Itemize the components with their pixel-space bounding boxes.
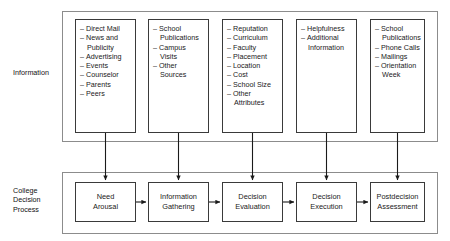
info-item: Parents [80,80,132,89]
process-step-label: Decision Execution [310,192,342,211]
info-box-mass-media-sources: Direct Mail News and Publicity Advertisi… [75,19,136,133]
info-item: Faculty [227,43,279,52]
process-step-decision-evaluation: Decision Evaluation [222,182,283,222]
info-item: School Publications [375,24,421,43]
process-step-label: Need Arousal [93,192,118,211]
info-box-execution-support: Helpfulness Additional Information [296,19,357,133]
row-label-college-decision-process: College Decision Process [13,186,41,214]
info-item: Placement [227,52,279,61]
process-step-label: Information Gathering [160,192,197,211]
info-item: News and Publicity [80,33,132,52]
info-item: Location [227,61,279,70]
info-item: School Publications [153,24,205,43]
college-decision-process-diagram: Information College Decision Process Dir… [0,0,450,241]
info-item: Advertising [80,52,132,61]
info-box-school-contact-sources: School Publications Campus Visits Other … [148,19,209,133]
process-step-information-gathering: Information Gathering [148,182,209,222]
info-list: School Publications Campus Visits Other … [153,24,205,80]
process-step-label: Decision Evaluation [235,192,270,211]
info-item: Peers [80,89,132,98]
process-step-decision-execution: Decision Execution [296,182,357,222]
info-item: Direct Mail [80,24,132,33]
info-item: School Size [227,80,279,89]
info-item: Cost [227,70,279,79]
info-item: Campus Visits [153,43,205,62]
info-item: Helpfulness [301,24,353,33]
info-list: Direct Mail News and Publicity Advertisi… [80,24,132,98]
info-item: Reputation [227,24,279,33]
info-item: Mailings [375,52,421,61]
info-item: Orientation Week [375,61,421,80]
info-item: Additional Information [301,33,353,52]
info-item: Other Sources [153,61,205,80]
info-item: Counselor [80,70,132,79]
info-item: Phone Calls [375,43,421,52]
info-item: Other Attributes [227,89,279,108]
row-label-information: Information [13,68,49,77]
info-list: Helpfulness Additional Information [301,24,353,52]
info-list: Reputation Curriculum Faculty Placement … [227,24,279,108]
info-box-evaluation-attributes: Reputation Curriculum Faculty Placement … [222,19,283,133]
info-list: School Publications Phone Calls Mailings… [375,24,421,80]
process-step-postdecision-assessment: Postdecision Assessment [370,182,425,222]
process-step-need-arousal: Need Arousal [75,182,136,222]
process-step-label: Postdecision Assessment [377,192,419,211]
info-item: Curriculum [227,33,279,42]
info-item: Events [80,61,132,70]
info-box-postdecision-contacts: School Publications Phone Calls Mailings… [370,19,425,133]
